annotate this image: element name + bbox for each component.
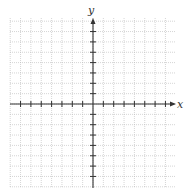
x-axis-label: x: [177, 98, 184, 111]
x-axis-arrow-icon: [170, 102, 176, 107]
axes: [10, 18, 176, 188]
y-axis-label: y: [87, 4, 95, 17]
coordinate-plane: y x: [0, 0, 185, 189]
